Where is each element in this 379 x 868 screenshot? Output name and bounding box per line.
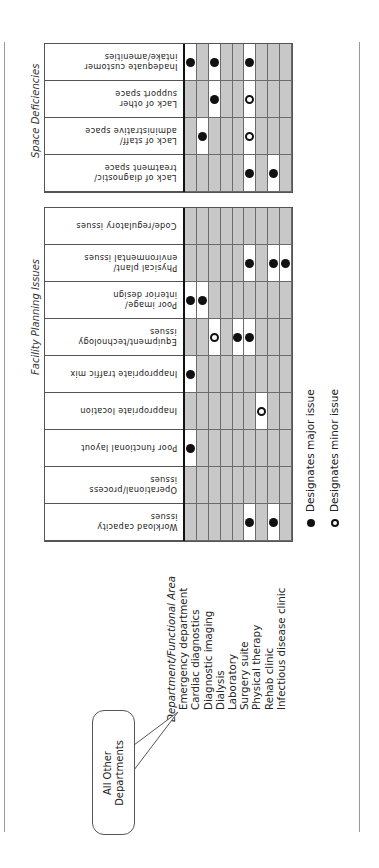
callout-text: All OtherDepartments bbox=[102, 740, 126, 806]
callout-line: All Other bbox=[102, 740, 114, 806]
callout-pointer bbox=[0, 0, 379, 868]
callout-line: Departments bbox=[114, 740, 126, 806]
all-other-departments-callout: All OtherDepartments bbox=[92, 710, 135, 835]
